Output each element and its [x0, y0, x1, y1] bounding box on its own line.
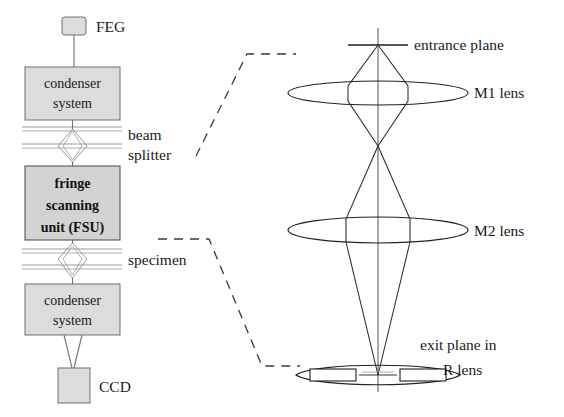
label-condenser-top-line1: condenser — [44, 76, 101, 91]
leader-lines — [158, 54, 300, 366]
label-beam-splitter-line1: beam — [128, 126, 162, 143]
label-condenser-bottom-line1: condenser — [44, 293, 101, 308]
label-fsu-line1: fringe — [55, 176, 91, 191]
label-condenser-bottom-line2: system — [53, 313, 92, 328]
leader-beam-splitter-to-entrance-plane — [196, 54, 296, 156]
block-condenser-top — [25, 67, 120, 120]
label-exit-plane-line2: R lens — [443, 361, 482, 378]
label-entrance-plane: entrance plane — [414, 36, 504, 53]
diagram-canvas: FEG condenser system beam splitter fring… — [0, 0, 564, 417]
label-m2-lens: M2 lens — [474, 222, 524, 239]
beam-splitter-optics — [22, 120, 122, 166]
feg-source — [62, 17, 86, 67]
ccd-leads — [64, 335, 82, 368]
label-ccd: CCD — [99, 378, 131, 395]
label-fsu-line2: scanning — [46, 198, 99, 213]
specimen-optics — [22, 240, 122, 284]
label-feg: FEG — [96, 18, 125, 35]
label-specimen: specimen — [128, 251, 187, 268]
label-fsu-line3: unit (FSU) — [41, 220, 105, 236]
figure-root: FEG condenser system beam splitter fring… — [0, 0, 564, 417]
ccd-detector — [58, 368, 90, 403]
label-m1-lens: M1 lens — [474, 84, 524, 101]
label-exit-plane-line1: exit plane in — [420, 336, 497, 353]
label-beam-splitter-line2: splitter — [128, 146, 172, 163]
label-condenser-top-line2: system — [53, 96, 92, 111]
r-lens-pole-piece-right — [400, 369, 446, 381]
r-lens-pole-piece-left — [310, 369, 356, 381]
